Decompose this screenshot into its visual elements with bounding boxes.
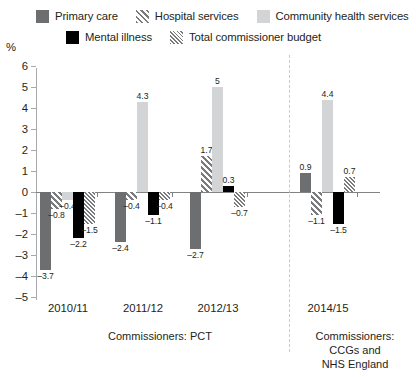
bar-value-label: 0.7 — [335, 167, 365, 176]
bars-layer: –3.7–0.8–0.4–2.2–1.5–2.4–0.44.3–1.1–0.4–… — [0, 0, 416, 377]
bar-value-label: –2.7 — [181, 251, 211, 260]
bar — [234, 192, 245, 207]
bar-value-label: –0.4 — [117, 202, 147, 211]
bar-value-label: –0.7 — [225, 209, 255, 218]
bar — [333, 192, 344, 224]
bar-value-label: 4.4 — [313, 90, 343, 99]
bar-value-label: –3.7 — [31, 272, 61, 281]
caption-right-commissioners: Commissioners:CCGs andNHS England — [300, 330, 410, 371]
bar — [311, 192, 322, 215]
caption-left-commissioners: Commissioners: PCT — [60, 330, 260, 344]
bar-value-label: –1.5 — [75, 226, 105, 235]
bar — [84, 192, 95, 224]
x-axis-group-label-2014-15: 2014/15 — [288, 303, 368, 314]
bar — [223, 186, 234, 192]
bar-value-label: 0.3 — [214, 176, 244, 185]
bar — [40, 192, 51, 270]
bar — [115, 192, 126, 242]
bar-value-label: –0.4 — [150, 202, 180, 211]
bar-value-label: 4.3 — [128, 92, 158, 101]
x-axis-group-label-2010-11: 2010/11 — [28, 303, 108, 314]
bar-value-label: –1.1 — [302, 217, 332, 226]
bar-value-label: 5 — [203, 77, 233, 86]
bar — [159, 192, 170, 200]
bar-value-label: –2.4 — [106, 244, 136, 253]
bar — [126, 192, 137, 200]
x-axis-group-label-2011-12: 2011/12 — [103, 303, 183, 314]
bar — [344, 177, 355, 192]
x-axis-group-label-2012-13: 2012/13 — [178, 303, 258, 314]
bar — [62, 192, 73, 200]
bar — [190, 192, 201, 249]
bar — [137, 102, 148, 192]
chart-container: Primary careHospital servicesCommunity h… — [0, 0, 416, 377]
bar-value-label: 0.9 — [291, 163, 321, 172]
bar-value-label: –2.2 — [64, 240, 94, 249]
bar-value-label: –1.1 — [139, 217, 169, 226]
bar — [322, 100, 333, 192]
bar — [201, 156, 212, 192]
bar-value-label: –1.5 — [324, 226, 354, 235]
bar-value-label: –0.8 — [42, 211, 72, 220]
bar — [300, 173, 311, 192]
